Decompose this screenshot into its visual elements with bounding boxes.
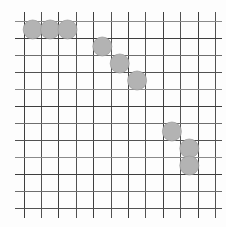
stone[interactable]: [41, 20, 60, 39]
stone[interactable]: [58, 20, 77, 39]
stone[interactable]: [162, 122, 181, 141]
stone[interactable]: [180, 156, 199, 175]
stone[interactable]: [93, 37, 112, 56]
grid-lines: [15, 12, 222, 218]
game-board[interactable]: [0, 0, 226, 227]
stone[interactable]: [128, 71, 147, 90]
stone[interactable]: [23, 20, 42, 39]
stone[interactable]: [110, 54, 129, 73]
board-canvas: [0, 0, 226, 227]
stone[interactable]: [180, 139, 199, 158]
